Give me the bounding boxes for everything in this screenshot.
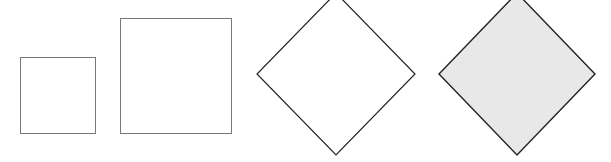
shapes-canvas (0, 0, 611, 162)
filled-diamond (439, 0, 595, 155)
large-square (121, 19, 232, 134)
outline-diamond (257, 0, 415, 155)
small-square (21, 58, 96, 134)
